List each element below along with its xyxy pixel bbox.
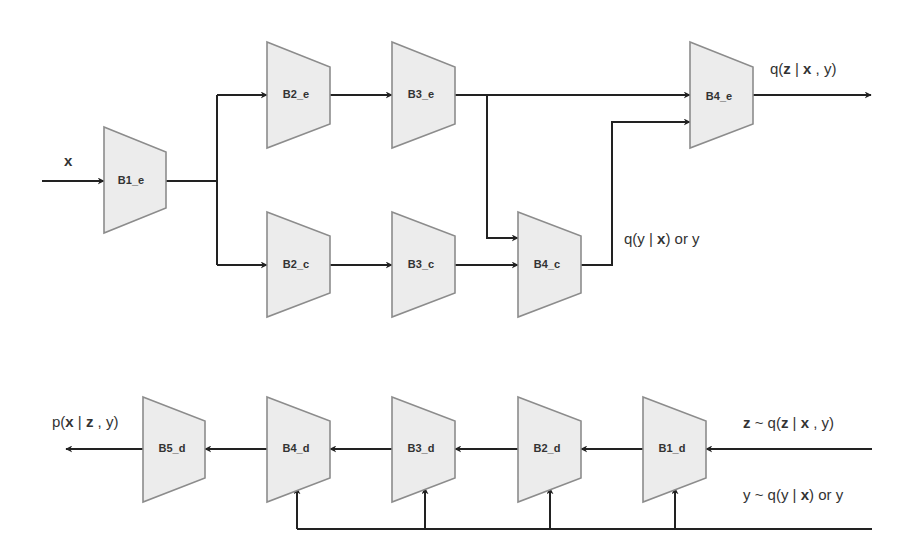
- z-sample-label: z ~ q(z | x , y): [743, 414, 834, 431]
- block-b1-e: B1_e: [104, 127, 166, 233]
- block-b3-e: B3_e: [392, 42, 455, 148]
- block-b2-e: B2_e: [267, 42, 330, 148]
- vae-block-diagram: B1_e B2_e B3_e B4_e B2_c B3_c B4_c B5_d …: [0, 0, 919, 555]
- block-b3-c: B3_c: [392, 212, 455, 317]
- block-b2-e-label: B2_e: [283, 88, 309, 100]
- block-b4-e: B4_e: [690, 42, 753, 148]
- block-b1-d: B1_d: [643, 397, 706, 502]
- block-b3-c-label: B3_c: [408, 258, 434, 270]
- block-b3-e-label: B3_e: [408, 88, 434, 100]
- block-b2-d: B2_d: [518, 397, 581, 502]
- block-b4-d-label: B4_d: [283, 442, 310, 454]
- block-b1-d-label: B1_d: [659, 442, 686, 454]
- block-b2-c: B2_c: [267, 212, 330, 317]
- block-b5-d: B5_d: [143, 397, 205, 502]
- decoder-output-label: p(x | z , y): [52, 413, 118, 430]
- block-b4-c: B4_c: [518, 212, 581, 317]
- block-b3-d-label: B3_d: [408, 442, 435, 454]
- block-b3-d: B3_d: [392, 397, 455, 502]
- block-b2-c-label: B2_c: [283, 258, 309, 270]
- classifier-output-label: q(y | x) or y: [624, 230, 700, 247]
- input-x-label: x: [64, 152, 73, 169]
- block-b4-d: B4_d: [267, 397, 330, 502]
- block-b1-e-label: B1_e: [118, 174, 144, 186]
- block-b4-c-label: B4_c: [534, 258, 560, 270]
- block-b5-d-label: B5_d: [159, 442, 186, 454]
- block-b4-e-label: B4_e: [706, 90, 732, 102]
- block-b2-d-label: B2_d: [534, 442, 561, 454]
- encoder-output-label: q(z | x , y): [770, 60, 836, 77]
- y-sample-label: y ~ q(y | x) or y: [743, 486, 844, 503]
- b3e-to-b4c-arrow: [487, 95, 518, 238]
